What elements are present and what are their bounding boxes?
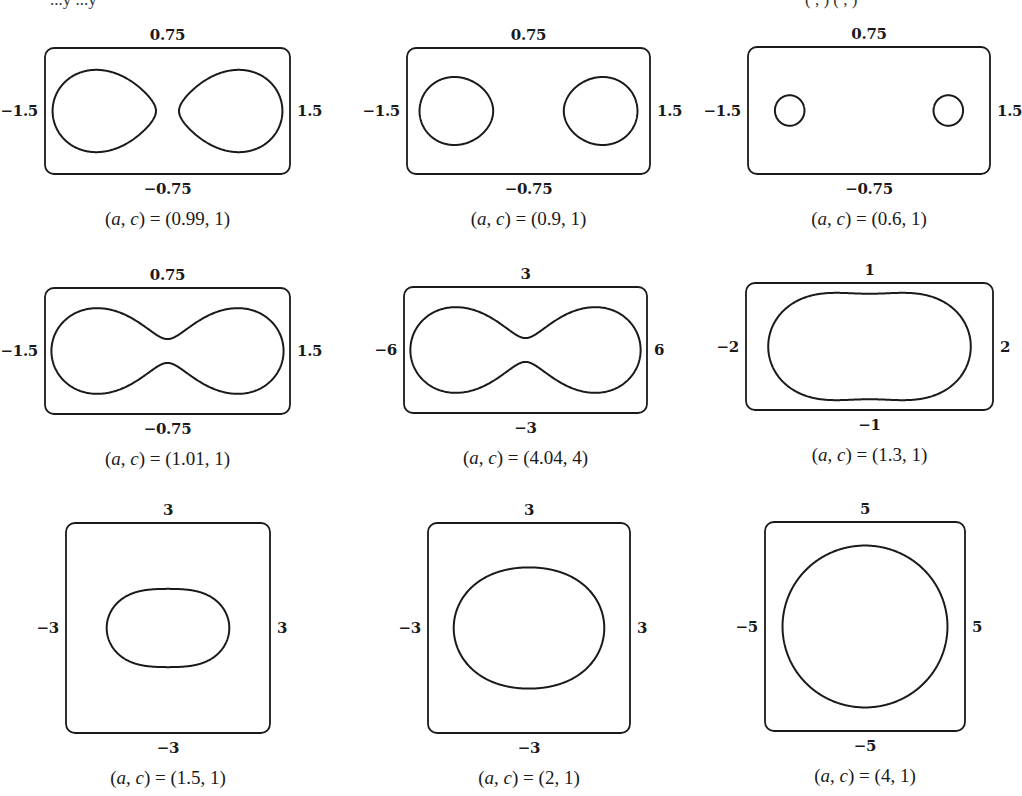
left-limit-label: −5 — [736, 618, 758, 636]
top-limit-label: 5 — [860, 500, 870, 518]
plot-svg — [0, 0, 1022, 796]
caption-prefix: (a, c) = — [814, 765, 874, 786]
plot-frame — [765, 522, 965, 731]
panel-caption: (a, c) = (4, 1) — [814, 765, 915, 787]
right-limit-label: 5 — [972, 618, 982, 636]
caption-params: (4, 1) — [875, 765, 916, 786]
cassini-oval-curve — [783, 546, 948, 708]
bottom-limit-label: −5 — [854, 737, 876, 755]
